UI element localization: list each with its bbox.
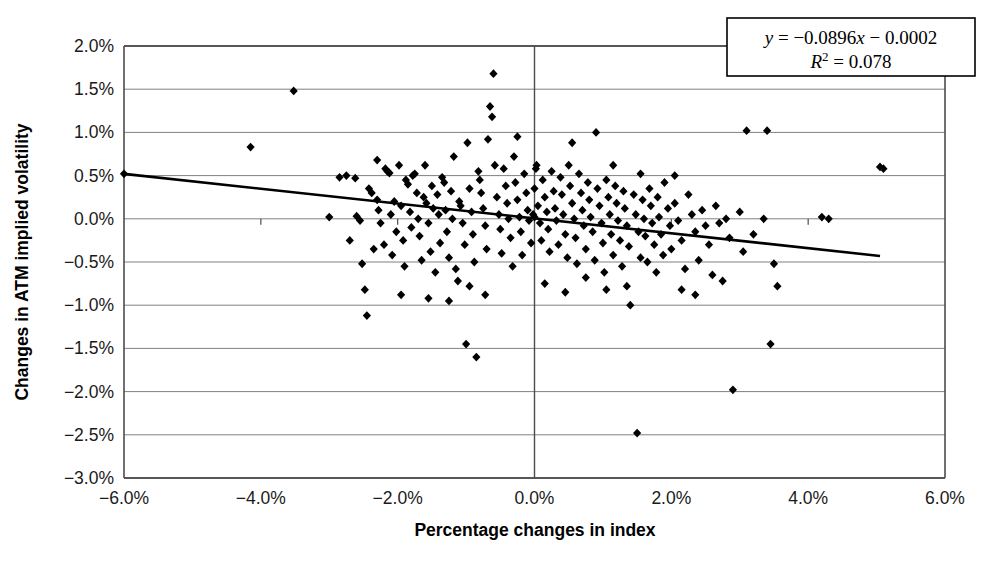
scatter-point [666,221,674,230]
scatter-point [671,199,679,208]
scatter-point [677,236,685,245]
scatter-point [476,176,484,185]
scatter-point [511,178,519,187]
scatter-point [481,221,489,230]
scatter-point [433,190,441,199]
scatter-point [654,193,662,202]
scatter-point [606,210,614,219]
scatter-point [818,213,826,222]
scatter-point [447,187,455,196]
scatter-point [435,210,443,219]
scatter-point [695,256,703,265]
scatter-point [632,210,640,219]
scatter-point [373,156,381,165]
scatter-point [358,259,366,268]
scatter-point [708,271,716,280]
scatter-point [491,161,499,170]
scatter-point [643,258,651,267]
scatter-point [571,233,579,242]
scatter-point [592,128,600,137]
scatter-point [518,251,526,260]
scatter-point [474,167,482,176]
scatter-point [513,195,521,204]
scatter-point [742,126,750,135]
scatter-point [400,262,408,271]
x-tick-label: 6.0% [925,488,965,508]
scatter-point [387,210,395,219]
scatter-point [655,213,663,222]
scatter-point [550,187,558,196]
scatter-point [638,195,646,204]
scatter-point [619,187,627,196]
scatter-point [431,268,439,277]
scatter-point [582,273,590,282]
scatter-point [484,135,492,144]
x-axis-title: Percentage changes in index [414,520,655,540]
scatter-point [712,201,720,210]
scatter-point [630,190,638,199]
scatter-point [493,193,501,202]
scatter-point [722,214,730,223]
scatter-chart: 2.0%1.5%1.0%0.5%0.0%−0.5%−1.0%−1.5%−2.0%… [0,0,992,566]
scatter-point [541,193,549,202]
scatter-point [566,182,574,191]
scatter-point [611,182,619,191]
scatter-point [370,245,378,254]
scatter-point [469,230,477,239]
scatter-point [406,207,414,216]
scatter-point [452,265,460,274]
x-tick-label: 0.0% [515,488,555,508]
scatter-point [413,188,421,197]
scatter-point [577,188,585,197]
scatter-point [636,169,644,178]
scatter-point [647,201,655,210]
scatter-point [486,102,494,111]
scatter-point [573,259,581,268]
scatter-point [472,353,480,362]
x-tick-label: −6.0% [99,488,149,508]
scatter-point [392,227,400,236]
scatter-point [729,385,737,394]
scatter-point [513,132,521,141]
scatter-point [589,227,597,236]
y-tick-label: −2.5% [64,425,114,445]
y-tick-label: −1.0% [64,295,114,315]
scatter-point [602,285,610,294]
scatter-point [551,204,559,213]
scatter-point [342,171,350,180]
scatter-point [650,240,658,249]
scatter-point [681,265,689,274]
scatter-point [626,301,634,310]
scatter-point [607,230,615,239]
scatter-point [691,290,699,299]
scatter-point [488,112,496,121]
scatter-point [766,340,774,349]
y-tick-label: −0.5% [64,252,114,272]
scatter-point [399,236,407,245]
x-tick-label: 4.0% [788,488,828,508]
y-tick-label: 0.5% [74,166,114,186]
scatter-point [609,251,617,260]
y-tick-labels: 2.0%1.5%1.0%0.5%0.0%−0.5%−1.0%−1.5%−2.0%… [64,36,114,488]
scatter-point [445,253,453,262]
scatter-point [361,285,369,294]
scatter-point [763,126,771,135]
scatter-point [604,193,612,202]
scatter-point [599,239,607,248]
scatter-point [688,210,696,219]
y-tick-label: 1.0% [74,122,114,142]
scatter-point [585,195,593,204]
scatter-point [645,184,653,193]
y-tick-label: 0.0% [74,209,114,229]
scatter-point [414,214,422,223]
scatter-point [548,167,556,176]
equation-line-2: R2 = 0.078 [809,49,891,73]
scatter-point [636,253,644,262]
scatter-point [509,262,517,271]
scatter-point [510,152,518,161]
y-tick-label: −2.0% [64,382,114,402]
scatter-point [621,204,629,213]
scatter-point [325,213,333,222]
scatter-point [705,240,713,249]
scatter-point [461,240,469,249]
